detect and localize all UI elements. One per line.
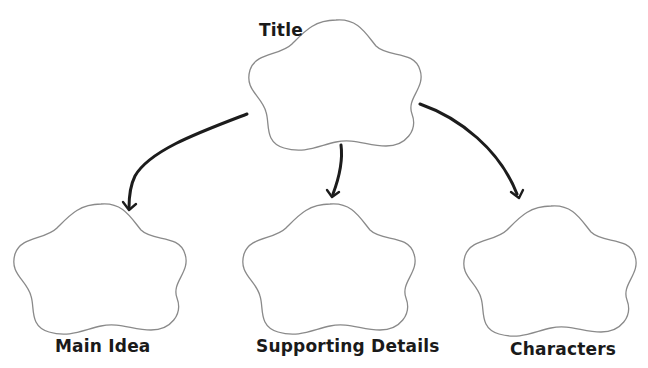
supporting-details-label: Supporting Details [256, 336, 440, 356]
characters-shape[interactable] [464, 206, 636, 336]
characters-label: Characters [510, 339, 616, 359]
title-label: Title [259, 20, 303, 40]
diagram-canvas [0, 0, 648, 368]
main-idea-shape[interactable] [14, 204, 186, 334]
main-idea-label: Main Idea [55, 336, 151, 356]
arrow-to-main-idea [123, 114, 247, 210]
arrow-to-characters [420, 104, 523, 198]
arrow-to-supporting-details [327, 145, 342, 197]
supporting-details-shape[interactable] [243, 204, 415, 334]
